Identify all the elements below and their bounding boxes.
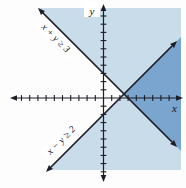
inequality-graph-figure: x + y ≥ 3 x − y ≥ 2 y x — [0, 0, 186, 188]
y-axis-label: y — [89, 5, 95, 17]
x-axis-label: x — [171, 102, 177, 114]
inequality-graph: x + y ≥ 3 x − y ≥ 2 y x — [0, 0, 186, 188]
